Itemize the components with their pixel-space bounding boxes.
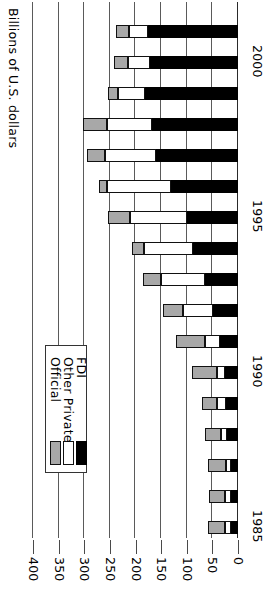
legend-swatch-official xyxy=(50,441,61,465)
segment-fdi xyxy=(145,87,238,100)
gridline xyxy=(160,2,161,538)
gridline xyxy=(211,2,212,538)
segment-official xyxy=(87,149,104,162)
value-tick-150: 150 xyxy=(154,557,169,581)
segment-fdi xyxy=(148,25,238,38)
segment-fdi xyxy=(231,490,238,503)
segment-fdi xyxy=(226,397,238,410)
segment-official xyxy=(177,335,205,348)
bar-1989 xyxy=(202,397,238,410)
gridline xyxy=(32,2,33,538)
segment-official xyxy=(202,397,217,410)
value-tick-300: 300 xyxy=(77,557,92,581)
segment-fdi xyxy=(231,521,238,534)
value-tick-50: 50 xyxy=(205,557,220,573)
value-tick-mark xyxy=(84,540,85,554)
segment-official xyxy=(83,118,107,131)
value-tick-mark xyxy=(161,540,162,554)
plot-area xyxy=(0,0,274,600)
segment-official xyxy=(99,180,108,193)
legend-label-fdi: FDI xyxy=(74,357,89,437)
value-tick-400: 400 xyxy=(26,557,41,581)
legend-swatch-other xyxy=(63,441,74,465)
bar-1990 xyxy=(192,366,238,379)
segment-fdi xyxy=(150,56,238,69)
segment-official xyxy=(192,366,217,379)
bar-1991 xyxy=(177,335,239,348)
segment-other-private xyxy=(225,490,231,503)
segment-other-private xyxy=(118,87,145,100)
bar-1999 xyxy=(108,87,238,100)
year-label-1985: 1985 xyxy=(250,510,265,543)
value-tick-0: 0 xyxy=(231,557,246,565)
segment-official xyxy=(116,25,129,38)
segment-official xyxy=(108,87,118,100)
segment-other-private xyxy=(183,304,214,317)
year-label-1995: 1995 xyxy=(250,200,265,233)
segment-other-private xyxy=(217,397,226,410)
value-tick-200: 200 xyxy=(129,557,144,581)
value-tick-250: 250 xyxy=(103,557,118,581)
segment-fdi xyxy=(193,242,238,255)
segment-fdi xyxy=(187,211,238,224)
value-axis-baseline xyxy=(237,2,238,538)
value-tick-100: 100 xyxy=(180,557,195,581)
bar-1996 xyxy=(99,180,238,193)
segment-other-private xyxy=(107,118,152,131)
bar-1992 xyxy=(163,304,238,317)
segment-official xyxy=(132,242,144,255)
segment-other-private xyxy=(217,366,225,379)
segment-other-private xyxy=(105,149,156,162)
segment-other-private xyxy=(128,56,150,69)
legend-swatch-fdi xyxy=(76,441,87,465)
segment-official xyxy=(114,56,128,69)
bar-1994 xyxy=(132,242,238,255)
value-tick-mark xyxy=(212,540,213,554)
value-tick-mark xyxy=(110,540,111,554)
segment-fdi xyxy=(152,118,238,131)
gridline xyxy=(186,2,187,538)
segment-fdi xyxy=(171,180,238,193)
bar-1997 xyxy=(87,149,238,162)
value-tick-mark xyxy=(136,540,137,554)
segment-other-private xyxy=(144,242,193,255)
segment-fdi xyxy=(205,273,238,286)
value-tick-mark xyxy=(187,540,188,554)
segment-other-private xyxy=(129,25,148,38)
bar-1986 xyxy=(209,490,238,503)
bar-1988 xyxy=(205,428,238,441)
segment-other-private xyxy=(205,335,220,348)
gridline xyxy=(135,2,136,538)
value-tick-mark xyxy=(238,540,239,554)
value-tick-mark xyxy=(33,540,34,554)
bar-1995 xyxy=(108,211,238,224)
segment-other-private xyxy=(130,211,186,224)
segment-fdi xyxy=(220,335,238,348)
segment-fdi xyxy=(213,304,238,317)
segment-other-private xyxy=(161,273,205,286)
bar-1998 xyxy=(83,118,238,131)
bar-2000 xyxy=(114,56,238,69)
segment-official xyxy=(163,304,182,317)
segment-official xyxy=(108,211,130,224)
segment-fdi xyxy=(156,149,238,162)
year-label-1990: 1990 xyxy=(250,355,265,388)
segment-official xyxy=(208,521,225,534)
segment-fdi xyxy=(225,366,238,379)
segment-other-private xyxy=(107,180,171,193)
bar-1993 xyxy=(143,273,238,286)
value-tick-350: 350 xyxy=(52,557,67,581)
value-tick-mark xyxy=(59,540,60,554)
segment-other-private xyxy=(226,459,231,472)
segment-official xyxy=(209,490,225,503)
segment-other-private xyxy=(221,428,228,441)
segment-official xyxy=(208,459,226,472)
segment-other-private xyxy=(225,521,231,534)
chart-figure: Billions of U.S. dollars 400350300250200… xyxy=(0,0,274,600)
bar-1985 xyxy=(208,521,238,534)
bar-2001 xyxy=(116,25,238,38)
segment-official xyxy=(205,428,221,441)
segment-fdi xyxy=(231,459,238,472)
segment-fdi xyxy=(227,428,238,441)
gridline xyxy=(109,2,110,538)
